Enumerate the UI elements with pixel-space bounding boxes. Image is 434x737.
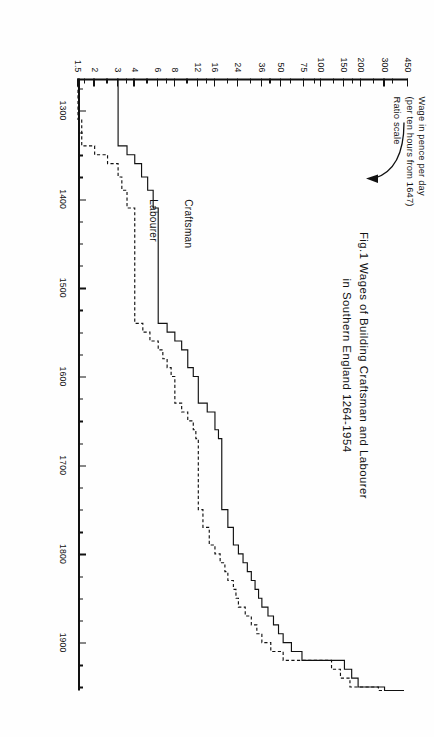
y-tick-label: 50 — [276, 44, 286, 72]
craftsman-line — [118, 78, 404, 690]
figure-stage: Wage in pence per day (per ten hours fro… — [0, 0, 434, 737]
x-tick-label: 1700 — [58, 455, 68, 475]
y-tick-label: 100 — [316, 44, 326, 72]
figure-canvas: Wage in pence per day (per ten hours fro… — [0, 0, 434, 737]
y-tick-label: 200 — [356, 44, 366, 72]
x-tick-label: 1600 — [58, 366, 68, 386]
scanned-figure-page: Wage in pence per day (per ten hours fro… — [0, 0, 434, 737]
y-tick-label: 2 — [90, 44, 100, 72]
x-tick-label: 1300 — [58, 100, 68, 120]
y-tick-label: 6 — [153, 44, 163, 72]
y-tick-label: 75 — [299, 44, 309, 72]
x-tick-label: 1500 — [58, 277, 68, 297]
y-tick-label: 16 — [210, 44, 220, 72]
labourer-line — [78, 78, 400, 690]
x-tick-label: 1900 — [58, 632, 68, 652]
plot-area: 1300140015001600170018001900 45030020015… — [78, 78, 408, 690]
y-tick-label: 3 — [113, 44, 123, 72]
y-tick-label: 8 — [170, 44, 180, 72]
x-tick-label: 1400 — [58, 189, 68, 209]
y-tick-label: 300 — [380, 44, 390, 72]
y-tick-label: 150 — [339, 44, 349, 72]
y-tick-label: 1.5 — [73, 44, 83, 72]
y-tick-label: 450 — [403, 44, 413, 72]
series-label-labourer: Labourer — [148, 199, 159, 242]
series-label-craftsman: Craftsman — [183, 199, 194, 248]
y-tick-label: 12 — [193, 44, 203, 72]
y-axis-caption-line-1: Wage in pence per day — [416, 96, 428, 206]
y-tick-label: 36 — [257, 44, 267, 72]
y-tick-label: 4 — [130, 44, 140, 72]
wage-curves — [78, 78, 408, 690]
x-tick-label: 1800 — [58, 543, 68, 563]
y-tick-label: 24 — [233, 44, 243, 72]
